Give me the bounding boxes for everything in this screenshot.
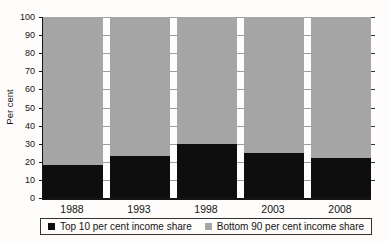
legend-swatch-bottom90 [205,223,212,230]
y-tick-mark-90 [39,35,42,36]
bar-top10-1998 [177,144,237,198]
y-tick-mark-30 [39,144,42,145]
bar-top10-1993 [110,156,170,198]
bar-top10-2003 [244,153,304,198]
right-tick-mark-50 [371,108,375,109]
y-tick-label-70: 70 [0,66,35,76]
y-tick-mark-40 [39,126,42,127]
y-tick-mark-70 [39,71,42,72]
legend-label-top10: Top 10 per cent income share [60,221,192,232]
y-tick-label-90: 90 [0,30,35,40]
legend: Top 10 per cent income share Bottom 90 p… [42,218,370,235]
y-tick-label-100: 100 [0,12,35,22]
bar-bottom90-1998 [177,17,237,144]
x-tick-label-1998: 1998 [184,203,228,215]
right-tick-mark-70 [371,71,375,72]
y-tick-label-20: 20 [0,157,35,167]
y-tick-mark-20 [39,162,42,163]
y-tick-mark-100 [39,17,42,18]
bar-bottom90-2003 [244,17,304,153]
y-tick-label-40: 40 [0,121,35,131]
legend-item-bottom90: Bottom 90 per cent income share [205,221,364,232]
x-tick-label-2003: 2003 [251,203,295,215]
bar-bottom90-1993 [110,17,170,156]
right-tick-mark-100 [371,17,375,18]
right-tick-mark-60 [371,89,375,90]
y-tick-label-80: 80 [0,48,35,58]
legend-box: Top 10 per cent income share Bottom 90 p… [40,218,372,235]
right-tick-mark-90 [371,35,375,36]
bar-bottom90-1988 [43,17,103,165]
y-tick-mark-80 [39,53,42,54]
y-tick-label-50: 50 [0,103,35,113]
right-tick-mark-40 [371,126,375,127]
bar-top10-2008 [311,158,371,198]
y-tick-label-30: 30 [0,139,35,149]
y-tick-mark-60 [39,89,42,90]
bar-bottom90-2008 [311,17,371,158]
plot-area [42,17,371,200]
right-tick-mark-20 [371,162,375,163]
y-tick-label-60: 60 [0,84,35,94]
legend-label-bottom90: Bottom 90 per cent income share [217,221,364,232]
y-tick-mark-0 [39,198,42,199]
right-tick-mark-10 [371,180,375,181]
legend-swatch-top10 [48,223,55,230]
y-tick-mark-50 [39,108,42,109]
y-tick-label-10: 10 [0,175,35,185]
right-tick-mark-80 [371,53,375,54]
income-share-stacked-bar-chart: Per cent Top 10 per cent income share Bo… [0,0,389,244]
right-tick-mark-30 [371,144,375,145]
x-tick-label-1988: 1988 [50,203,94,215]
x-tick-label-2008: 2008 [318,203,362,215]
x-tick-label-1993: 1993 [117,203,161,215]
legend-item-top10: Top 10 per cent income share [48,221,192,232]
bar-top10-1988 [43,165,103,198]
y-tick-label-0: 0 [0,193,35,203]
y-tick-mark-10 [39,180,42,181]
